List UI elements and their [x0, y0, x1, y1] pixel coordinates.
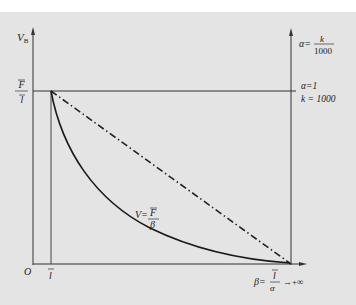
diagram: VB F l O l β= l α →+∞ α= k 1000 α=1 k = … [0, 0, 356, 305]
right-axis-arrow-icon [289, 28, 293, 36]
x-axis-label: β= l α →+∞ [253, 270, 304, 293]
svg-text:l: l [21, 94, 24, 105]
x-axis-arrow-icon [299, 262, 307, 266]
svg-text:F: F [18, 79, 26, 90]
alpha-k-label: α= k 1000 [299, 34, 334, 56]
y-axis-label: VB [17, 31, 29, 45]
svg-text:l: l [49, 270, 52, 281]
svg-text:β: β [149, 219, 155, 230]
svg-text:F: F [149, 207, 157, 218]
x-tick-label: l [48, 269, 54, 281]
k-1000-label: k = 1000 [301, 94, 336, 104]
svg-text:V=: V= [135, 209, 148, 220]
svg-text:1000: 1000 [314, 46, 333, 56]
y-axis-arrow-icon [31, 27, 35, 35]
svg-text:→+∞: →+∞ [283, 277, 304, 287]
svg-text:α=: α= [299, 38, 311, 49]
alpha-one-label: α=1 [301, 81, 317, 91]
svg-text:β=: β= [253, 276, 266, 287]
origin-label: O [24, 266, 31, 277]
y-tick-label: F l [15, 79, 28, 105]
svg-text:k: k [320, 34, 325, 44]
svg-text:α: α [270, 283, 275, 293]
svg-text:l: l [273, 270, 276, 281]
